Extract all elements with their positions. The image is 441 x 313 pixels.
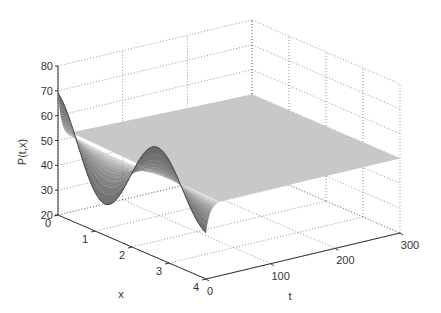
grid-line bbox=[58, 20, 252, 66]
z-tick-label: 30 bbox=[41, 184, 53, 196]
x-tick bbox=[54, 215, 58, 216]
t-tick bbox=[206, 279, 209, 281]
x-tick-label: 1 bbox=[82, 233, 88, 245]
z-tick-label: 80 bbox=[41, 60, 53, 72]
z-tick-label: 70 bbox=[41, 85, 53, 97]
x-axis-label: x bbox=[118, 288, 124, 300]
x-tick-label: 0 bbox=[45, 217, 51, 229]
surface bbox=[58, 93, 400, 233]
grid-line bbox=[132, 201, 326, 247]
x-tick bbox=[202, 279, 206, 280]
z-axis-label: P(t,x) bbox=[16, 139, 28, 165]
x-tick-label: 3 bbox=[156, 265, 162, 277]
z-tick-label: 50 bbox=[41, 135, 53, 147]
x-tick-label: 4 bbox=[193, 281, 199, 293]
t-tick bbox=[400, 233, 403, 235]
grid-line bbox=[58, 45, 252, 91]
x-tick-label: 2 bbox=[119, 249, 125, 261]
z-tick-label: 60 bbox=[41, 110, 53, 122]
t-tick bbox=[335, 248, 338, 250]
t-axis-label: t bbox=[288, 290, 291, 302]
grid-line bbox=[169, 217, 363, 263]
grid-line bbox=[252, 45, 400, 109]
x-tick bbox=[91, 231, 95, 232]
t-tick-label: 0 bbox=[207, 285, 213, 297]
t-tick-label: 200 bbox=[336, 254, 354, 266]
x-tick bbox=[165, 263, 169, 264]
t-tick-label: 300 bbox=[401, 239, 419, 251]
surface-plot: 20304050607080012340100200300 P(t,x) x t bbox=[0, 0, 441, 313]
t-tick bbox=[271, 264, 274, 266]
z-tick-label: 40 bbox=[41, 159, 53, 171]
x-tick bbox=[128, 247, 132, 248]
t-axis-line bbox=[206, 233, 400, 279]
t-tick-label: 100 bbox=[271, 270, 289, 282]
